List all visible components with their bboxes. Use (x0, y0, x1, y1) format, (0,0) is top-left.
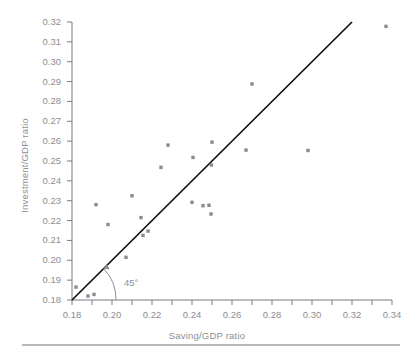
y-tick-label: 0.26 (27, 135, 61, 146)
reference-line-45deg (72, 22, 352, 300)
x-tick-label: 0.22 (135, 309, 169, 320)
plot-canvas: 45° (0, 0, 414, 353)
y-tick-label: 0.19 (27, 274, 61, 285)
y-tick-label: 0.22 (27, 215, 61, 226)
scatter-plot-figure: Investment/GDP ratio Saving/GDP ratio 45… (0, 0, 414, 353)
y-tick-label: 0.23 (27, 195, 61, 206)
axes (67, 22, 392, 305)
x-tick-label: 0.30 (295, 309, 329, 320)
x-tick-label: 0.32 (335, 309, 369, 320)
x-tick-label: 0.24 (175, 309, 209, 320)
y-tick-label: 0.32 (27, 16, 61, 27)
y-tick-label: 0.27 (27, 115, 61, 126)
y-tick-label: 0.30 (27, 56, 61, 67)
y-tick-label: 0.28 (27, 95, 61, 106)
data-points (74, 25, 387, 298)
angle-annotation: 45° (104, 264, 139, 300)
y-tick-label: 0.21 (27, 234, 61, 245)
bottom-divider-rule (22, 344, 400, 346)
x-tick-label: 0.34 (375, 309, 409, 320)
y-tick-label: 0.20 (27, 254, 61, 265)
svg-text:45°: 45° (124, 277, 139, 288)
y-tick-label: 0.24 (27, 175, 61, 186)
x-tick-label: 0.28 (255, 309, 289, 320)
y-tick-label: 0.18 (27, 294, 61, 305)
x-tick-label: 0.20 (95, 309, 129, 320)
x-tick-label: 0.26 (215, 309, 249, 320)
y-tick-label: 0.31 (27, 36, 61, 47)
x-tick-label: 0.18 (55, 309, 89, 320)
y-tick-label: 0.29 (27, 76, 61, 87)
y-tick-label: 0.25 (27, 155, 61, 166)
